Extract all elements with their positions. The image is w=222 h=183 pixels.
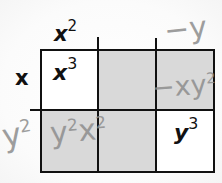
row-header-2-pencil: y2 [0,116,35,153]
row-header-1-text: x [15,66,29,90]
column-header-1-base: x [54,22,68,46]
multiplication-box-diagram: x2 −y x y2 x3 −xy2 y2x2 y3 [0,0,222,183]
cell-r2-c3-base: y [174,120,188,145]
grid-bottom-edge [41,171,215,173]
cell-r2-c1-pencil-term: y2x2 [49,114,108,149]
grid-left-edge [40,49,42,173]
row-header-2-exponent: 2 [18,115,33,137]
cell-r1-c2 [98,50,156,110]
cell-r1-c1-exponent: 3 [67,54,77,73]
cell-r1-c1-term: x3 [53,62,77,84]
row-header-1: x [15,68,29,89]
cell-r1-c3-exponent: 2 [206,69,217,88]
cell-r1-c3-pencil-term: −xy2 [151,70,217,101]
cell-r1-c1-base: x [53,60,67,85]
cell-r2-c3-exponent: 3 [188,114,198,133]
column-header-3-text: −y [162,9,208,48]
column-header-3-pencil: −y [163,12,209,46]
grid-divider-2 [155,38,157,173]
cell-r1-c3-base: −xy [151,68,208,103]
column-header-1: x2 [54,24,77,45]
grid-right-edge [213,49,215,173]
column-header-1-exponent: 2 [68,17,78,35]
grid-middle-line [30,109,215,111]
grid-divider-1 [97,37,99,173]
grid-top-edge [41,49,215,51]
cell-r2-c1-exponent2: 2 [95,113,107,133]
cell-r2-c3-term: y3 [174,122,198,144]
